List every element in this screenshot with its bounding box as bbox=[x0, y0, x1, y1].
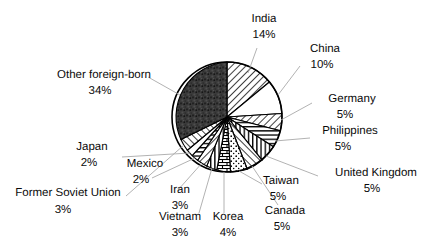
leader-line-other bbox=[148, 77, 180, 95]
label-china-name: China bbox=[310, 43, 341, 55]
label-japan-name: Japan bbox=[76, 141, 107, 153]
label-former-soviet-union-name: Former Soviet Union bbox=[15, 187, 120, 199]
label-iran-name: Iran bbox=[170, 184, 190, 196]
label-iran-value: 3% bbox=[172, 200, 189, 212]
label-china-value: 10% bbox=[310, 59, 333, 71]
label-former-soviet-union-value: 3% bbox=[55, 204, 72, 216]
label-mexico-name: Mexico bbox=[127, 158, 163, 170]
label-korea-value: 4% bbox=[220, 227, 237, 239]
label-other-foreign-born-name: Other foreign-born bbox=[57, 69, 151, 81]
leader-line-philippines bbox=[275, 138, 310, 141]
leader-line-taiwan bbox=[239, 171, 262, 184]
label-vietnam-name: Vietnam bbox=[159, 211, 201, 223]
label-mexico-value: 2% bbox=[133, 174, 150, 186]
label-vietnam-value: 3% bbox=[172, 227, 189, 239]
leader-line-germany bbox=[281, 103, 312, 120]
pie-slices bbox=[172, 62, 282, 172]
pie-chart-canvas: India 14% China 10% Germany 5% Philippin… bbox=[0, 0, 428, 243]
label-germany-value: 5% bbox=[337, 109, 354, 121]
label-united-kingdom-name: United Kingdom bbox=[335, 167, 417, 179]
label-other-foreign-born-value: 34% bbox=[88, 85, 111, 97]
leader-line-china bbox=[278, 66, 300, 95]
label-taiwan-value: 5% bbox=[270, 191, 287, 203]
label-philippines-name: Philippines bbox=[322, 125, 378, 137]
label-korea-name: Korea bbox=[213, 211, 244, 223]
label-india-value: 14% bbox=[252, 29, 275, 41]
label-india-name: India bbox=[252, 13, 278, 25]
label-united-kingdom-value: 5% bbox=[364, 183, 381, 195]
label-japan-value: 2% bbox=[81, 157, 98, 169]
label-philippines-value: 5% bbox=[335, 141, 352, 153]
label-canada-value: 5% bbox=[274, 221, 291, 233]
pie-chart-figure: India 14% China 10% Germany 5% Philippin… bbox=[0, 0, 428, 243]
label-taiwan-name: Taiwan bbox=[263, 175, 299, 187]
label-canada-name: Canada bbox=[265, 205, 306, 217]
label-germany-name: Germany bbox=[328, 93, 376, 105]
leader-line-japan bbox=[122, 153, 190, 157]
leader-line-vietnam bbox=[199, 168, 212, 213]
leader-line-uk bbox=[266, 156, 318, 176]
